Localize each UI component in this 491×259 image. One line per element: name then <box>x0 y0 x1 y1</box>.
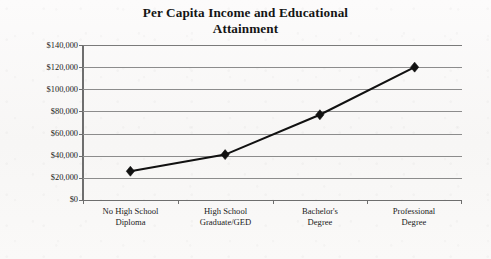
chart-title-line-1: Per Capita Income and Educational <box>0 5 491 21</box>
x-axis-label-high-school-graduate-ged: High School Graduate/GED <box>178 206 273 228</box>
data-point-marker <box>316 110 324 120</box>
series-markers <box>126 62 418 176</box>
x-axis-label-line-1: No High School <box>83 206 178 217</box>
series-polyline <box>130 67 414 171</box>
x-axis-label-professional-degree: Professional Degree <box>367 206 461 228</box>
plot-area <box>83 45 462 200</box>
data-point-marker <box>126 166 134 176</box>
y-axis-label-40000: $40,000 <box>8 151 78 160</box>
chart-title-line-2: Attainment <box>0 21 491 37</box>
y-axis-label-0: $0 <box>8 195 78 204</box>
x-tick-boundary-3 <box>367 200 368 204</box>
x-axis-label-no-high-school-diploma: No High School Diploma <box>83 206 178 228</box>
x-tick-boundary-4 <box>461 200 462 204</box>
x-axis-label-line-1: Professional <box>367 206 461 217</box>
y-axis-label-140000: $140,000 <box>8 41 78 50</box>
chart-container: Per Capita Income and Educational Attain… <box>0 0 491 259</box>
x-tick-boundary-0 <box>83 200 84 204</box>
x-tick-boundary-2 <box>273 200 274 204</box>
y-axis-label-80000: $80,000 <box>8 107 78 116</box>
x-axis-label-line-2: Graduate/GED <box>178 217 273 228</box>
data-point-marker <box>221 150 229 160</box>
y-axis-label-100000: $100,000 <box>8 85 78 94</box>
chart-title: Per Capita Income and Educational Attain… <box>0 5 491 37</box>
x-tick-boundary-1 <box>178 200 179 204</box>
y-axis-label-20000: $20,000 <box>8 173 78 182</box>
x-axis-label-line-2: Diploma <box>83 217 178 228</box>
x-axis-label-line-1: High School <box>178 206 273 217</box>
data-point-marker <box>411 62 419 72</box>
x-axis-label-line-2: Degree <box>367 217 461 228</box>
x-axis-label-line-2: Degree <box>273 217 367 228</box>
y-axis-label-120000: $120,000 <box>8 63 78 72</box>
x-axis-label-line-1: Bachelor's <box>273 206 367 217</box>
y-axis-label-60000: $60,000 <box>8 129 78 138</box>
x-axis-label-bachelors-degree: Bachelor's Degree <box>273 206 367 228</box>
series-income-line <box>83 45 462 200</box>
